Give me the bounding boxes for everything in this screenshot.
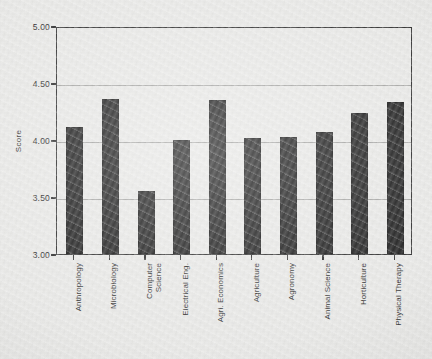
- x-axis-tick-mark: [394, 255, 395, 260]
- y-axis-tick-label: 4.00: [33, 136, 50, 146]
- y-axis-tick-labels: 3.003.504.004.505.00: [0, 0, 50, 359]
- x-axis-tick-mark: [180, 255, 181, 260]
- bar: [173, 140, 190, 254]
- x-axis-tick-label: Animal Science: [323, 263, 332, 359]
- x-axis-tick-mark: [322, 255, 323, 260]
- bar-chart: Score 3.003.504.004.505.00 AnthropologyM…: [0, 0, 432, 359]
- plot-inner: [57, 28, 411, 254]
- x-axis-tick-label: Anthropology: [74, 263, 83, 359]
- x-axis-tick-label: Microbiology: [109, 263, 118, 359]
- y-axis-tick-label: 3.00: [33, 250, 50, 260]
- bar: [351, 113, 368, 254]
- x-axis-tick-mark: [287, 255, 288, 260]
- bar: [387, 102, 404, 254]
- bar: [280, 137, 297, 254]
- x-axis-tick-mark: [216, 255, 217, 260]
- bar: [138, 191, 155, 254]
- y-axis-tick-mark: [51, 26, 56, 27]
- y-axis-tick-label: 5.00: [33, 22, 50, 32]
- x-axis-tick-label: Electrical Eng.: [181, 263, 190, 359]
- bar: [102, 99, 119, 254]
- y-axis-tick-mark: [51, 140, 56, 141]
- plot-area: [56, 27, 412, 255]
- bar: [209, 100, 226, 254]
- x-axis-tick-label: Computer Science: [145, 263, 164, 359]
- x-axis-tick-label: Agronomy: [287, 263, 296, 359]
- x-axis-tick-mark: [251, 255, 252, 260]
- y-axis-tick-label: 3.50: [33, 193, 50, 203]
- bar: [244, 138, 261, 254]
- y-axis-tick-mark: [51, 83, 56, 84]
- x-axis-tick-mark: [358, 255, 359, 260]
- x-axis-tick-label: Agriculture: [252, 263, 261, 359]
- gridline: [57, 85, 411, 86]
- bar: [316, 132, 333, 254]
- bar: [66, 127, 83, 254]
- y-axis-tick-mark: [51, 197, 56, 198]
- x-axis-tick-label: Agri. Economics: [216, 263, 225, 359]
- y-axis-tick-label: 4.50: [33, 79, 50, 89]
- x-axis-tick-mark: [73, 255, 74, 260]
- x-axis-tick-label: Physical Therapy: [394, 263, 403, 359]
- x-axis-tick-mark: [109, 255, 110, 260]
- y-axis-tick-mark: [51, 254, 56, 255]
- x-axis-tick-mark: [144, 255, 145, 260]
- x-axis-tick-label: Horticulture: [359, 263, 368, 359]
